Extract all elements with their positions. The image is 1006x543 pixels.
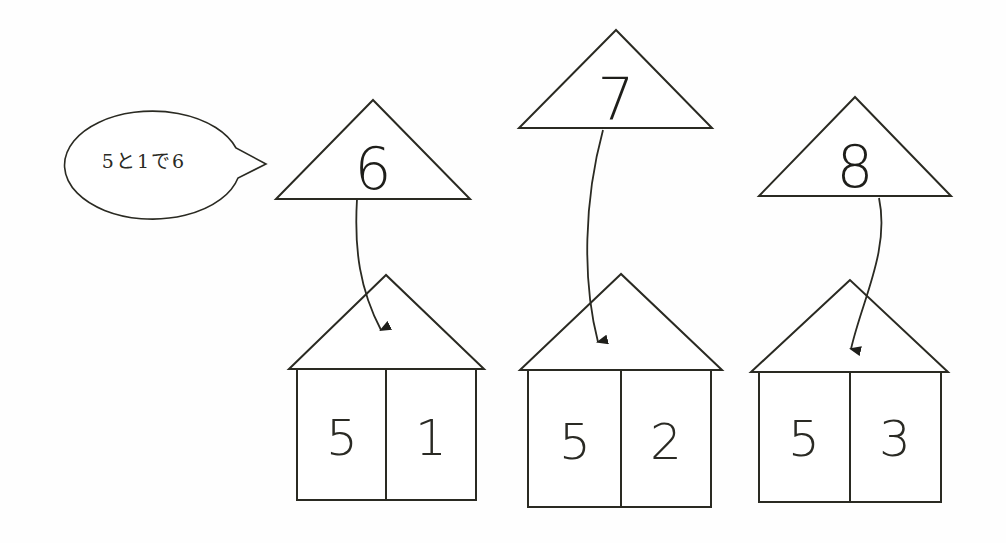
number-triangle-8: 8 bbox=[759, 97, 951, 201]
number-triangle-6: 6 bbox=[276, 100, 470, 203]
house-left-number: 5 bbox=[559, 413, 591, 471]
house-right-number: 3 bbox=[879, 410, 911, 468]
house-roof bbox=[751, 280, 948, 372]
speech-bubble-text: 5と1で6 bbox=[102, 150, 186, 172]
triangle-number: 7 bbox=[598, 66, 635, 134]
number-triangle-7: 7 bbox=[519, 30, 712, 134]
speech-bubble: 5と1で6 bbox=[65, 111, 266, 219]
triangle-number: 8 bbox=[837, 133, 874, 201]
house-right-number: 2 bbox=[650, 413, 682, 471]
house-roof bbox=[520, 274, 722, 370]
house-2: 5 2 bbox=[520, 274, 722, 507]
house-left-number: 5 bbox=[788, 410, 820, 468]
house-1: 5 1 bbox=[289, 275, 484, 500]
number-composition-diagram: 5と1で6 6 7 8 5 1 5 2 5 3 bbox=[0, 0, 1006, 543]
house-left-number: 5 bbox=[326, 409, 358, 467]
house-body bbox=[528, 370, 711, 507]
triangle-number: 6 bbox=[355, 135, 392, 203]
house-3: 5 3 bbox=[751, 280, 948, 502]
house-roof bbox=[289, 275, 484, 369]
house-right-number: 1 bbox=[415, 409, 447, 467]
